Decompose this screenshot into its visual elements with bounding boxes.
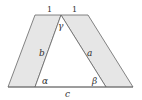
label-top-right-length: 1: [72, 5, 77, 14]
label-side-a: a: [87, 48, 92, 58]
label-base-c: c: [65, 89, 70, 99]
triangle-parallelogram-diagram: 1 1 γ b a α β c: [0, 0, 142, 100]
label-top-left-length: 1: [47, 5, 52, 14]
diagram-svg: 1 1 γ b a α β c: [0, 0, 142, 100]
label-angle-gamma: γ: [58, 21, 64, 31]
label-side-b: b: [39, 48, 45, 58]
label-angle-beta: β: [91, 76, 97, 86]
label-angle-alpha: α: [42, 76, 48, 86]
